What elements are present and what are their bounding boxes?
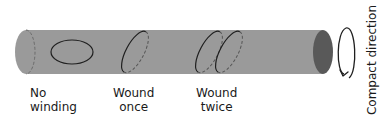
label-line: twice [196,100,237,114]
label-line: No [30,86,77,100]
label-wound-twice: Wound twice [196,86,237,114]
diagram-canvas: No winding Wound once Wound twice Compac… [0,0,390,123]
circular-arrow-icon [338,28,355,78]
label-no-winding: No winding [30,86,77,114]
label-wound-once: Wound once [113,86,154,114]
label-line: Wound [113,86,154,100]
compact-direction-label: Compact direction [365,5,379,115]
label-line: winding [30,100,77,114]
cylinder-body [15,30,323,74]
label-line: Wound [196,86,237,100]
cylinder-end-cap [313,30,333,74]
cylinder [15,30,333,74]
label-line: once [113,100,154,114]
